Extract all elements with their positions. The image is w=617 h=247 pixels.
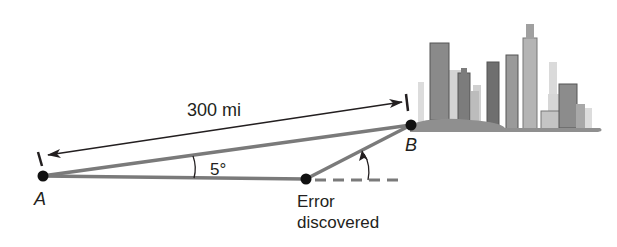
error-label-line2: discovered	[297, 214, 379, 232]
point-B-label: B	[405, 136, 417, 155]
angle-label: 5°	[210, 161, 226, 179]
distance-label: 300 mi	[187, 101, 241, 120]
angle-arc-5deg	[193, 156, 195, 178]
path-A-to-B	[42, 125, 411, 176]
distance-tick-right	[406, 94, 408, 111]
path-A-to-error	[42, 176, 306, 179]
error-label-line1: Error	[297, 193, 335, 211]
point-B	[406, 120, 417, 131]
distance-tick-left	[38, 152, 42, 166]
point-A	[38, 171, 49, 182]
point-A-label: A	[34, 190, 46, 209]
point-error	[301, 174, 312, 185]
city-skyline-illustration	[410, 24, 602, 132]
